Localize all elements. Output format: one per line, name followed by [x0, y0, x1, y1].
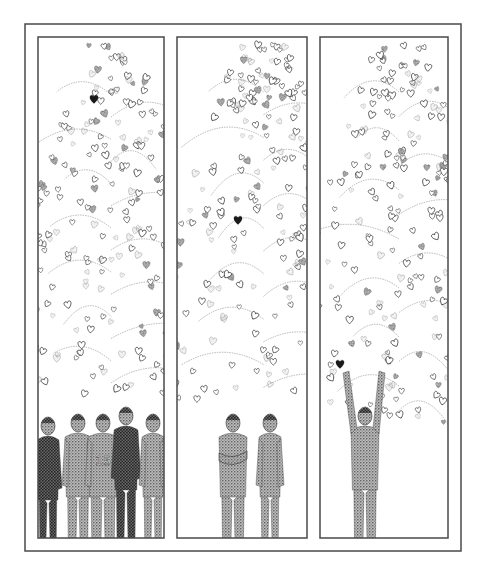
three-panel-illustration: 15 [0, 0, 482, 570]
people-group: 15 [34, 407, 167, 540]
jersey-number: 15 [95, 453, 112, 468]
caption-cropped [0, 560, 482, 570]
